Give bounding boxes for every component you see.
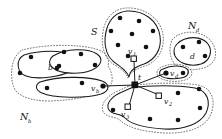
vertex-dot: [148, 117, 153, 122]
vertex-dot: [151, 29, 156, 34]
label-vertex-t: t: [138, 73, 142, 82]
vertex-dot: [62, 50, 67, 55]
vertex-dot: [198, 106, 203, 111]
label-region-nd: N d: [187, 20, 200, 33]
vertex-dot: [93, 63, 98, 68]
vertex-dot: [197, 40, 202, 45]
figure-canvas: S N b N d b d t v 1 v 2 v 3 v b v: [0, 0, 222, 139]
node-v2: [156, 93, 161, 98]
label-region-nd-sub: d: [196, 27, 200, 33]
vertex-dot-b: [55, 66, 60, 71]
vertex-dot: [176, 118, 181, 123]
vertex-dot: [181, 45, 186, 50]
vertex-dot: [197, 87, 202, 92]
vertex-dot: [109, 29, 114, 34]
vertex-dot: [116, 43, 121, 48]
graph-diagram: S N b N d b d t v 1 v 2 v 3 v b v: [0, 0, 222, 139]
vertex-dot: [79, 52, 84, 57]
vertex-dot: [163, 70, 168, 75]
label-vertex-v2-sub: 2: [168, 101, 172, 107]
node-t: [132, 82, 138, 88]
label-vertex-d: d: [190, 52, 195, 61]
label-region-nb-sub: b: [28, 118, 31, 124]
vertex-dot: [18, 71, 23, 76]
edge-t-vb: [104, 85, 135, 86]
vertex-dot: [29, 55, 34, 60]
vertex-dot: [130, 32, 135, 37]
vertex-dot: [144, 45, 149, 50]
region-s-blob: [105, 11, 160, 77]
label-vertex-vb-sub: b: [96, 88, 99, 94]
vertex-dot: [176, 91, 181, 96]
label-region-s: S: [91, 26, 98, 37]
vertex-dot: [181, 71, 186, 76]
label-vertex-v1-sub: 1: [133, 51, 136, 57]
vertex-dot: [45, 86, 50, 91]
vertex-dot: [118, 16, 123, 21]
vertex-dot: [80, 81, 85, 86]
vertex-dot: [137, 19, 142, 24]
vertex-dot: [100, 83, 105, 88]
vertex-dot: [111, 108, 116, 113]
vertex-dot: [203, 54, 208, 59]
label-vertex-b: b: [48, 63, 53, 72]
node-v3: [125, 104, 130, 109]
label-region-nb: N b: [19, 111, 31, 124]
